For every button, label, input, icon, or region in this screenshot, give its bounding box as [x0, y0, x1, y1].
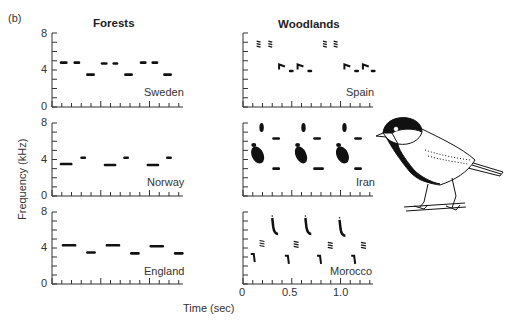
sonogram-plots [0, 0, 514, 320]
